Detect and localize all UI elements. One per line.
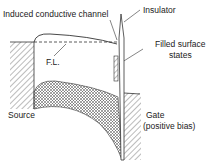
- filled-states-label-2: states: [169, 51, 192, 60]
- source-region: [10, 42, 34, 109]
- conduction-band: [34, 34, 117, 44]
- channel-label: Induced conductive channel: [3, 10, 108, 19]
- gate-region: [124, 93, 141, 160]
- filled-surface-states: [114, 56, 118, 81]
- insulator-label: Insulator: [143, 6, 176, 15]
- valence-band: [34, 81, 122, 160]
- band-diagram: [0, 0, 213, 167]
- gate-label-2: (positive bias): [143, 122, 195, 131]
- gate-label-1: Gate: [146, 111, 164, 120]
- source-label: Source: [8, 111, 35, 120]
- fermi-level-label: F.L.: [46, 58, 60, 67]
- filled-states-label-1: Filled surface: [155, 40, 206, 49]
